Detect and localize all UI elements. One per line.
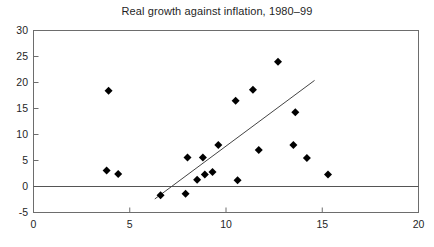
data-point xyxy=(324,171,332,179)
axes-frame xyxy=(34,31,419,213)
data-point xyxy=(249,86,257,94)
data-point xyxy=(182,190,190,198)
plot-frame xyxy=(34,31,419,213)
y-tick-label: -5 xyxy=(0,207,28,218)
y-tick-label: 20 xyxy=(0,77,28,88)
y-tick-label: 10 xyxy=(0,129,28,140)
data-point xyxy=(232,97,240,105)
data-point xyxy=(114,170,122,178)
scatter-plot-svg xyxy=(0,0,434,247)
data-point xyxy=(103,166,111,174)
data-point xyxy=(289,141,297,149)
data-point xyxy=(184,153,192,161)
data-point-group xyxy=(103,58,332,200)
x-tick-label: 20 xyxy=(399,219,434,230)
data-point xyxy=(255,146,263,154)
x-tick-marks xyxy=(130,208,323,213)
y-tick-label: 0 xyxy=(0,181,28,192)
data-point xyxy=(193,176,201,184)
y-tick-label: 25 xyxy=(0,51,28,62)
y-tick-label: 5 xyxy=(0,155,28,166)
data-point xyxy=(201,171,209,179)
y-tick-label: 30 xyxy=(0,25,28,36)
data-point xyxy=(105,87,113,95)
data-point xyxy=(199,153,207,161)
plot-area: -5051015202530 05101520 xyxy=(0,0,434,247)
data-point xyxy=(303,154,311,162)
x-tick-label: 5 xyxy=(110,219,150,230)
y-tick-marks xyxy=(34,31,39,213)
data-point xyxy=(274,58,282,66)
chart-figure: Real growth against inflation, 1980–99 -… xyxy=(0,0,434,247)
x-tick-label: 0 xyxy=(14,219,54,230)
data-point xyxy=(209,168,217,176)
x-tick-label: 10 xyxy=(206,219,246,230)
data-point xyxy=(214,141,222,149)
x-tick-label: 15 xyxy=(302,219,342,230)
y-tick-label: 15 xyxy=(0,103,28,114)
data-point xyxy=(291,108,299,116)
data-point xyxy=(234,176,242,184)
